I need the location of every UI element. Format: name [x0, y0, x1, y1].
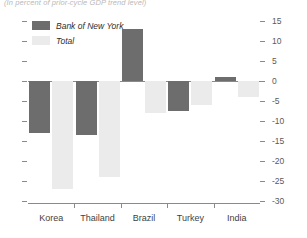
- y-axis-tick-label: -25: [272, 176, 284, 186]
- bar-brazil-total: [145, 81, 166, 113]
- y-tick-left: [22, 181, 27, 182]
- bar-india-bank-of-new-york: [215, 77, 236, 81]
- y-tick-left: [22, 201, 27, 202]
- y-tick-right: [260, 41, 265, 42]
- bar-brazil-bank-of-new-york: [122, 29, 143, 81]
- bar-chart: (In percent of prior-cycle GDP trend lev…: [0, 0, 307, 238]
- x-tick: [74, 203, 75, 208]
- y-tick-right: [260, 21, 265, 22]
- x-axis-label-thailand: Thailand: [80, 213, 115, 223]
- y-axis-tick-label: -15: [272, 136, 284, 146]
- bar-india-total: [238, 81, 259, 97]
- y-tick-left: [22, 121, 27, 122]
- x-tick: [121, 203, 122, 208]
- bar-thailand-bank-of-new-york: [76, 81, 97, 135]
- x-axis-label-india: India: [227, 213, 247, 223]
- y-axis-tick-label: -20: [272, 156, 284, 166]
- y-axis-tick-label: 5: [272, 56, 277, 66]
- bar-korea-total: [52, 81, 73, 189]
- y-tick-left: [22, 81, 27, 82]
- x-axis-label-brazil: Brazil: [133, 213, 156, 223]
- y-tick-left: [22, 41, 27, 42]
- y-axis-tick-label: -10: [272, 116, 284, 126]
- y-tick-right: [260, 61, 265, 62]
- bar-thailand-total: [99, 81, 120, 177]
- y-tick-left: [22, 161, 27, 162]
- y-tick-right: [260, 81, 265, 82]
- bar-turkey-total: [191, 81, 212, 105]
- y-tick-left: [22, 61, 27, 62]
- x-tick: [167, 203, 168, 208]
- y-tick-left: [22, 21, 27, 22]
- bar-turkey-bank-of-new-york: [168, 81, 189, 111]
- y-tick-right: [260, 181, 265, 182]
- y-tick-right: [260, 141, 265, 142]
- x-axis-label-turkey: Turkey: [177, 213, 204, 223]
- bar-korea-bank-of-new-york: [29, 81, 50, 133]
- y-tick-right: [260, 201, 265, 202]
- y-tick-left: [22, 101, 27, 102]
- chart-plot-area: [28, 14, 260, 204]
- y-tick-right: [260, 101, 265, 102]
- y-axis-tick-label: -5: [272, 96, 280, 106]
- y-axis-tick-label: -30: [272, 196, 284, 206]
- x-axis-line: [28, 203, 260, 204]
- y-tick-left: [22, 141, 27, 142]
- y-tick-right: [260, 121, 265, 122]
- y-axis-tick-label: 15: [272, 16, 281, 26]
- chart-subtitle: (In percent of prior-cycle GDP trend lev…: [4, 0, 244, 7]
- y-tick-right: [260, 161, 265, 162]
- x-tick: [214, 203, 215, 208]
- y-axis-tick-label: 10: [272, 36, 281, 46]
- y-axis-tick-label: 0: [272, 76, 277, 86]
- x-axis-label-korea: Korea: [39, 213, 63, 223]
